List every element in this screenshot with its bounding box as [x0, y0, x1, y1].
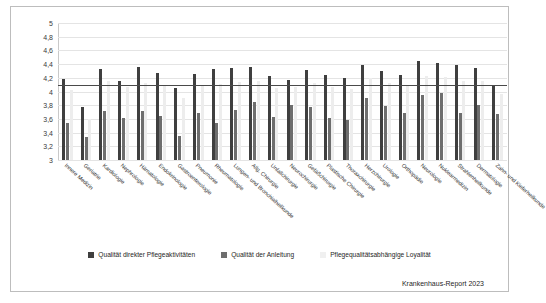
- bar-group: [301, 23, 320, 160]
- bar-group: [395, 23, 414, 160]
- bar: [103, 111, 106, 160]
- x-label-slot: Dermatologie: [469, 161, 488, 231]
- legend-item[interactable]: Qualität direkter Pflegeaktivitäten: [88, 252, 195, 259]
- bar: [257, 81, 260, 160]
- y-axis-tick: 4,6: [43, 47, 53, 54]
- x-label-slot: Endokrinologie: [152, 161, 171, 231]
- y-axis-tick: 4,4: [43, 61, 53, 68]
- x-label-slot: Gefäßchirurgie: [301, 161, 320, 231]
- x-label-slot: Kardiologie: [95, 161, 114, 231]
- bar: [268, 76, 271, 160]
- bar: [350, 89, 353, 160]
- bar: [406, 86, 409, 160]
- x-label-slot: Unfallchirurgie: [264, 161, 283, 231]
- bar-group: [95, 23, 114, 160]
- x-label-slot: Nuklearmedizin: [432, 161, 451, 231]
- bar: [417, 61, 420, 160]
- bar-group: [451, 23, 470, 160]
- bar: [294, 87, 297, 160]
- bar: [287, 80, 290, 160]
- bar: [144, 83, 147, 160]
- bar-group: [320, 23, 339, 160]
- bar: [159, 116, 162, 160]
- bar: [459, 113, 462, 160]
- bar: [444, 77, 447, 160]
- bar: [85, 137, 88, 160]
- bar-group: [339, 23, 358, 160]
- bar: [197, 113, 200, 160]
- x-label-slot: Allg. Chirurgie: [245, 161, 264, 231]
- source-note: Krankenhaus-Report 2023: [402, 280, 484, 287]
- bar: [174, 88, 177, 160]
- bar: [66, 123, 69, 160]
- y-axis-tick: 4: [49, 88, 53, 95]
- bar: [331, 87, 334, 160]
- bar: [481, 81, 484, 160]
- bar: [70, 90, 73, 160]
- bar: [193, 74, 196, 160]
- bar: [62, 79, 65, 161]
- bar: [343, 78, 346, 160]
- bar: [230, 68, 233, 160]
- bar: [219, 84, 222, 160]
- bar: [99, 69, 102, 160]
- x-label-slot: Geriatrie: [77, 161, 96, 231]
- bar: [118, 81, 121, 160]
- bar: [81, 107, 84, 160]
- bar: [253, 102, 256, 160]
- bar-group: [170, 23, 189, 160]
- bar-group: [58, 23, 77, 160]
- bar: [275, 88, 278, 160]
- legend-label: Pflegequalitätsabhängige Loyalität: [330, 252, 430, 259]
- bar: [309, 107, 312, 160]
- legend-label: Qualität direkter Pflegeaktivitäten: [98, 252, 195, 259]
- bar: [156, 73, 159, 160]
- y-axis-tick: 3,4: [43, 129, 53, 136]
- y-axis-tick: 3,8: [43, 102, 53, 109]
- bar: [474, 68, 477, 160]
- legend-swatch-icon: [221, 252, 227, 258]
- bar: [88, 119, 91, 160]
- x-axis-category-labels: Innere MedizinGeriatrieKardiologieNephro…: [58, 161, 507, 231]
- bar-group: [413, 23, 432, 160]
- bar-group: [77, 23, 96, 160]
- chart-legend: Qualität direkter PflegeaktivitätenQuali…: [11, 252, 508, 259]
- x-axis-label: Zahn- und Kieferheilkunde: [494, 163, 546, 210]
- bar: [492, 85, 495, 160]
- plot-area: [58, 23, 507, 160]
- bar-group: [226, 23, 245, 160]
- bar: [436, 63, 439, 160]
- bar-group: [282, 23, 301, 160]
- bar: [477, 105, 480, 160]
- x-label-slot: Neurochirurgie: [282, 161, 301, 231]
- x-label-slot: Neurologie: [413, 161, 432, 231]
- bar-group: [469, 23, 488, 160]
- chart-frame: 33,23,43,63,844,24,44,64,85 Innere Mediz…: [10, 6, 509, 292]
- bar: [425, 76, 428, 160]
- bar: [455, 65, 458, 160]
- y-axis-tick: 4,8: [43, 33, 53, 40]
- bar: [388, 83, 391, 160]
- x-label-slot: Nephrologie: [114, 161, 133, 231]
- bar-group: [133, 23, 152, 160]
- bar: [324, 75, 327, 160]
- bar: [272, 117, 275, 160]
- bar: [107, 81, 110, 160]
- x-label-slot: Rheumatologie: [208, 161, 227, 231]
- bar: [238, 82, 241, 160]
- legend-item[interactable]: Pflegequalitätsabhängige Loyalität: [320, 252, 430, 259]
- bar-group: [245, 23, 264, 160]
- y-axis-tick: 5: [49, 20, 53, 27]
- legend-item[interactable]: Qualität der Anleitung: [221, 252, 294, 259]
- bar: [361, 65, 364, 160]
- bar-group: [152, 23, 171, 160]
- bar: [496, 114, 499, 160]
- legend-swatch-icon: [88, 252, 94, 258]
- reference-line: [58, 85, 507, 86]
- x-label-slot: Zahn- und Kieferheilkunde: [488, 161, 507, 231]
- bar-group: [208, 23, 227, 160]
- bar: [365, 98, 368, 160]
- bar: [403, 113, 406, 160]
- bar-group: [432, 23, 451, 160]
